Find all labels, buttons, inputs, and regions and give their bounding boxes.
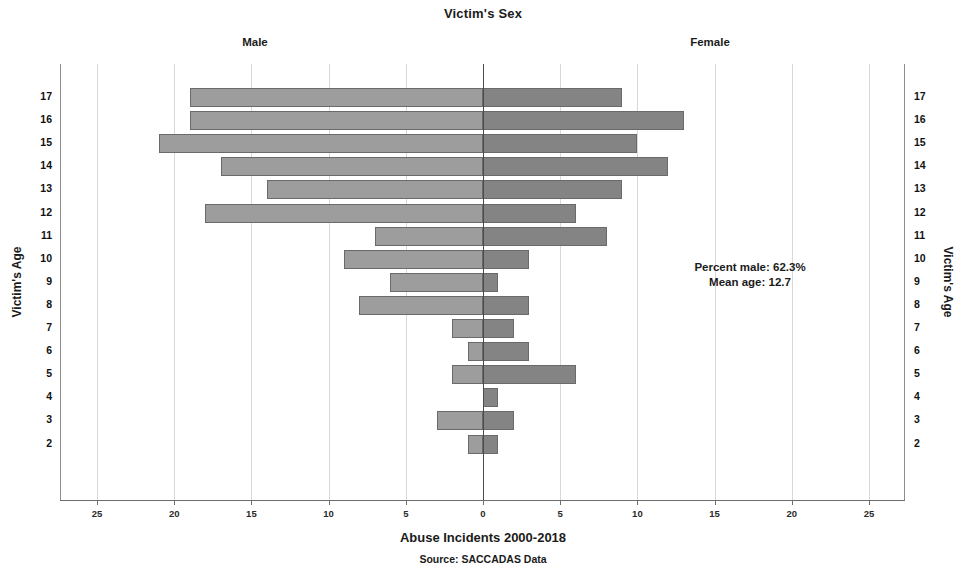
bar-male [159, 134, 483, 153]
y-tick-label-left: 6 [22, 344, 52, 356]
y-tick-label-right: 3 [914, 413, 944, 425]
x-tick-label: 0 [463, 508, 503, 519]
bar-female [483, 250, 529, 269]
bar-male [190, 111, 483, 130]
x-tick-mark [869, 500, 870, 505]
bar-female [483, 296, 529, 315]
y-tick-label-right: 12 [914, 206, 944, 218]
y-tick-label-right: 17 [914, 90, 944, 102]
stats-annotation: Percent male: 62.3% Mean age: 12.7 [625, 260, 875, 290]
bar-female [483, 111, 684, 130]
y-tick-label-right: 2 [914, 437, 944, 449]
bar-male [390, 273, 483, 292]
x-tick-label: 15 [231, 508, 271, 519]
y-axis-title-right: Victim's Age [941, 222, 955, 342]
page-title: Victim's Sex [0, 6, 966, 21]
center-axis-line [483, 64, 484, 500]
x-tick-label: 10 [617, 508, 657, 519]
male-group-header: Male [185, 36, 325, 48]
source-note: Source: SACCADAS Data [0, 553, 966, 565]
y-tick-label-right: 16 [914, 113, 944, 125]
y-tick-label-right: 4 [914, 390, 944, 402]
bar-female [483, 227, 607, 246]
y-tick-label-left: 10 [22, 252, 52, 264]
y-tick-label-left: 11 [22, 229, 52, 241]
bar-female [483, 273, 498, 292]
y-tick-label-left: 15 [22, 136, 52, 148]
y-tick-label-left: 5 [22, 367, 52, 379]
y-tick-label-left: 16 [22, 113, 52, 125]
y-tick-label-left: 14 [22, 159, 52, 171]
x-tick-label: 10 [309, 508, 349, 519]
y-tick-label-right: 13 [914, 182, 944, 194]
y-tick-label-left: 8 [22, 298, 52, 310]
x-tick-mark [792, 500, 793, 505]
bar-male [267, 180, 483, 199]
y-tick-label-right: 6 [914, 344, 944, 356]
x-tick-label: 20 [772, 508, 812, 519]
bar-male [437, 411, 483, 430]
y-tick-label-right: 10 [914, 252, 944, 264]
y-tick-label-right: 9 [914, 275, 944, 287]
y-axis-title-left: Victim's Age [10, 222, 24, 342]
y-tick-label-left: 7 [22, 321, 52, 333]
bar-male [375, 227, 483, 246]
x-tick-mark [97, 500, 98, 505]
x-tick-mark [637, 500, 638, 505]
bar-male [468, 435, 483, 454]
bar-male [190, 88, 483, 107]
x-tick-label: 25 [77, 508, 117, 519]
y-tick-label-left: 17 [22, 90, 52, 102]
y-tick-label-right: 7 [914, 321, 944, 333]
y-tick-label-left: 3 [22, 413, 52, 425]
mean-age-text: Mean age: 12.7 [625, 275, 875, 290]
bar-male [468, 342, 483, 361]
x-tick-label: 20 [154, 508, 194, 519]
bar-female [483, 319, 514, 338]
bar-male [452, 319, 483, 338]
bar-female [483, 411, 514, 430]
x-tick-mark [329, 500, 330, 505]
y-tick-label-left: 2 [22, 437, 52, 449]
bar-female [483, 88, 622, 107]
x-tick-label: 15 [695, 508, 735, 519]
y-tick-label-right: 8 [914, 298, 944, 310]
x-tick-mark [251, 500, 252, 505]
y-tick-label-right: 15 [914, 136, 944, 148]
x-tick-label: 5 [386, 508, 426, 519]
female-group-header: Female [640, 36, 780, 48]
bar-female [483, 204, 576, 223]
x-tick-label: 25 [849, 508, 889, 519]
bar-male [359, 296, 483, 315]
bar-male [344, 250, 483, 269]
y-tick-label-left: 4 [22, 390, 52, 402]
bar-male [452, 365, 483, 384]
bar-female [483, 435, 498, 454]
bar-male [221, 157, 483, 176]
x-axis-title: Abuse Incidents 2000-2018 [0, 530, 966, 545]
x-tick-mark [560, 500, 561, 505]
percent-male-text: Percent male: 62.3% [625, 260, 875, 275]
bar-male [205, 204, 483, 223]
bar-female [483, 342, 529, 361]
x-tick-label: 5 [540, 508, 580, 519]
bar-female [483, 388, 498, 407]
y-tick-label-left: 12 [22, 206, 52, 218]
bar-female [483, 180, 622, 199]
y-tick-label-right: 5 [914, 367, 944, 379]
y-tick-label-right: 14 [914, 159, 944, 171]
bar-female [483, 157, 668, 176]
x-tick-mark [483, 500, 484, 505]
y-tick-label-right: 11 [914, 229, 944, 241]
x-tick-mark [715, 500, 716, 505]
x-tick-mark [174, 500, 175, 505]
bar-female [483, 365, 576, 384]
y-tick-label-left: 13 [22, 182, 52, 194]
x-tick-mark [406, 500, 407, 505]
bar-female [483, 134, 637, 153]
y-tick-label-left: 9 [22, 275, 52, 287]
